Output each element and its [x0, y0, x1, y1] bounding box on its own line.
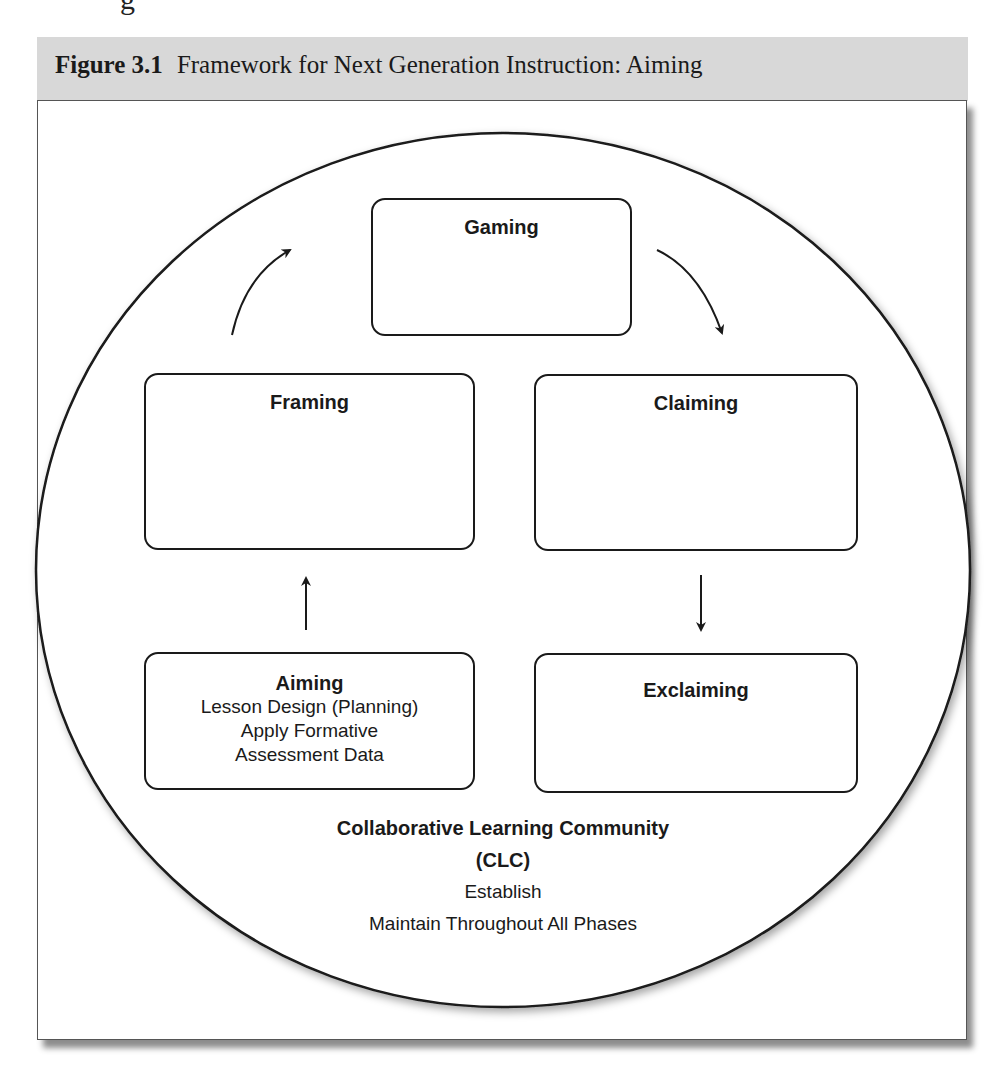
clc-text: Collaborative Learning Community (CLC) E…: [200, 812, 806, 940]
phase-title: Aiming: [146, 672, 473, 695]
phase-detail: Apply Formative: [146, 719, 473, 743]
phase-title: Exclaiming: [536, 679, 856, 702]
phase-box-claiming: Claiming: [534, 374, 858, 551]
phase-title: Gaming: [373, 216, 630, 239]
clc-detail: Maintain Throughout All Phases: [200, 908, 806, 940]
phase-box-exclaiming: Exclaiming: [534, 653, 858, 793]
phase-box-framing: Framing: [144, 373, 475, 550]
phase-box-aiming: Aiming Lesson Design (Planning) Apply Fo…: [144, 652, 475, 790]
phase-box-gaming: Gaming: [371, 198, 632, 336]
phase-detail: Assessment Data: [146, 743, 473, 767]
clc-abbreviation: (CLC): [200, 844, 806, 876]
phase-detail: Lesson Design (Planning): [146, 695, 473, 719]
clc-title: Collaborative Learning Community: [200, 812, 806, 844]
phase-title: Framing: [146, 391, 473, 414]
clc-detail: Establish: [200, 876, 806, 908]
phase-title: Claiming: [536, 392, 856, 415]
